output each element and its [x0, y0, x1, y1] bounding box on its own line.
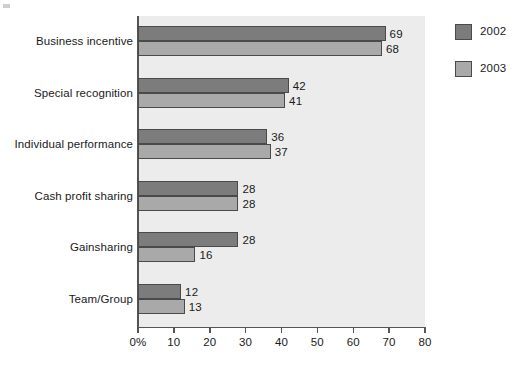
bar-value-label: 28 [242, 234, 255, 246]
bar-2002 [138, 26, 386, 41]
bar-2002 [138, 232, 238, 247]
bar-value-label: 41 [289, 95, 302, 107]
x-axis-tick [281, 327, 283, 333]
bar-2003 [138, 299, 185, 314]
legend-label: 2003 [480, 62, 506, 74]
x-axis-tick-label: 30 [239, 336, 252, 348]
x-axis-tick [173, 327, 175, 333]
x-axis-tick [317, 327, 319, 333]
bar-2002 [138, 284, 181, 299]
x-axis-tick-label: 40 [275, 336, 288, 348]
bar-value-label: 68 [386, 43, 399, 55]
category-label: Cash profit sharing [35, 190, 133, 202]
bar-2002 [138, 78, 289, 93]
bar-2003 [138, 144, 271, 159]
category-label: Individual performance [14, 138, 133, 150]
x-axis-tick-label: 10 [167, 336, 180, 348]
bar-value-label: 12 [185, 286, 198, 298]
x-axis-tick-label: 0% [129, 336, 146, 348]
x-axis-tick-label: 70 [383, 336, 396, 348]
bar-chart: 0%1020304050607080 Business incentive696… [0, 0, 518, 373]
bar-value-label: 16 [199, 249, 212, 261]
x-axis-tick [353, 327, 355, 333]
x-axis-tick-label: 50 [311, 336, 324, 348]
bar-value-label: 28 [242, 198, 255, 210]
x-axis-tick-label: 80 [418, 336, 431, 348]
x-axis-tick [209, 327, 211, 333]
x-axis-tick [137, 327, 139, 333]
x-axis-tick [245, 327, 247, 333]
bar-2003 [138, 247, 195, 262]
bar-value-label: 37 [275, 146, 288, 158]
bar-2002 [138, 181, 238, 196]
y-axis-line [137, 16, 139, 327]
x-axis-tick [424, 327, 426, 333]
bar-value-label: 42 [293, 80, 306, 92]
bar-value-label: 69 [390, 28, 403, 40]
bar-value-label: 13 [189, 301, 202, 313]
bar-2003 [138, 93, 285, 108]
category-label: Special recognition [34, 87, 133, 99]
plot-area [137, 16, 425, 327]
bar-2003 [138, 41, 382, 56]
category-label: Gainsharing [70, 241, 133, 253]
bar-value-label: 28 [242, 183, 255, 195]
legend-label: 2002 [480, 25, 506, 37]
legend-swatch [455, 24, 472, 40]
x-axis-tick-label: 20 [203, 336, 216, 348]
x-axis-tick [388, 327, 390, 333]
scan-artifact [3, 4, 10, 8]
bar-value-label: 36 [271, 131, 284, 143]
bar-2003 [138, 196, 238, 211]
category-label: Business incentive [36, 35, 133, 47]
category-label: Team/Group [69, 293, 133, 305]
legend-swatch [455, 61, 472, 77]
x-axis-tick-label: 60 [347, 336, 360, 348]
bar-2002 [138, 129, 267, 144]
